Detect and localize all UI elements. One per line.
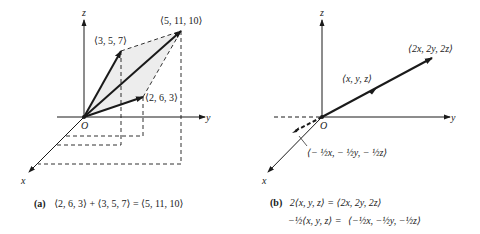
- caption-b-tag: (b): [270, 197, 282, 209]
- vector-neg-half: [295, 117, 322, 131]
- caption-a-tag: (a): [34, 198, 46, 210]
- x-label: x: [261, 175, 267, 186]
- caption-b-line2: −½⟨x, y, z⟩ = ⟨−½x, −½y, −½z⟩: [288, 215, 421, 226]
- point-sum-label: ⟨5, 11, 10⟩: [160, 15, 203, 26]
- point-neg-half-label: ⟨− ½x, − ½y, − ½z⟩: [307, 147, 387, 158]
- y-label: y: [450, 112, 456, 123]
- origin-dot: [320, 115, 324, 119]
- point-u-label: ⟨3, 5, 7⟩: [94, 35, 127, 46]
- z-label: z: [319, 7, 324, 18]
- panel-b: z y x O ⟨x, y, z⟩ ⟨2x, 2y, 2z⟩ ⟨− ½x, − …: [261, 7, 456, 226]
- leader-line: [299, 136, 307, 146]
- y-label: y: [205, 112, 211, 123]
- vector-double: [322, 58, 432, 117]
- origin-label: O: [81, 120, 88, 131]
- caption-b-line1: (b) 2⟨x, y, z⟩ = ⟨2x, 2y, 2z⟩: [270, 197, 382, 209]
- caption-a-text: ⟨2, 6, 3⟩ + ⟨3, 5, 7⟩ = ⟨5, 11, 10⟩: [54, 198, 183, 209]
- vector-diagram: z y x O ⟨3, 5, 7⟩ ⟨5, 11, 10⟩ ⟨2, 6, 3⟩ …: [0, 0, 480, 234]
- z-label: z: [81, 7, 86, 18]
- x-label: x: [20, 175, 26, 186]
- caption-a: (a) ⟨2, 6, 3⟩ + ⟨3, 5, 7⟩ = ⟨5, 11, 10⟩: [34, 198, 184, 210]
- origin-dot: [82, 115, 86, 119]
- origin-label: O: [320, 120, 327, 131]
- point-v-label: ⟨2, 6, 3⟩: [145, 92, 178, 103]
- point-double-label: ⟨2x, 2y, 2z⟩: [408, 43, 453, 54]
- caption-b-line2-rhs: ⟨−½x, −½y, −½z⟩: [348, 215, 421, 226]
- caption-b-line1-text: 2⟨x, y, z⟩ = ⟨2x, 2y, 2z⟩: [290, 197, 382, 208]
- point-v-label: ⟨x, y, z⟩: [342, 73, 372, 84]
- panel-a: z y x O ⟨3, 5, 7⟩ ⟨5, 11, 10⟩ ⟨2, 6, 3⟩ …: [20, 7, 211, 210]
- x-axis: [268, 117, 322, 172]
- caption-b-line2-lhs: −½⟨x, y, z⟩ =: [288, 215, 342, 226]
